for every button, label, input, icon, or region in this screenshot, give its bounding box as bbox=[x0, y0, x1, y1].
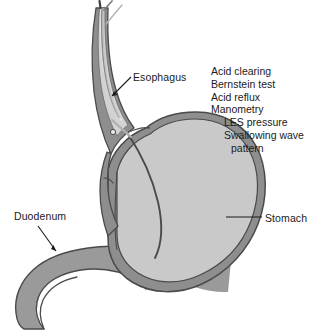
anatomy-illustration bbox=[0, 0, 316, 330]
test-list-item: Swallowing wave bbox=[211, 129, 304, 142]
test-list-item: Acid clearing bbox=[211, 65, 304, 78]
esophagus-label: Esophagus bbox=[133, 71, 186, 84]
test-list-item: LES pressure bbox=[211, 116, 304, 129]
duodenum-label: Duodenum bbox=[14, 210, 66, 223]
anatomy-figure: Esophagus Duodenum Stomach Acid clearing… bbox=[0, 0, 316, 330]
catheter-external-tube-1 bbox=[100, 1, 101, 8]
test-list-item: Manometry bbox=[211, 103, 304, 116]
test-list-item: Bernstein test bbox=[211, 78, 304, 91]
stomach-label: Stomach bbox=[265, 212, 307, 225]
esophageal-test-list: Acid clearingBernstein testAcid refluxMa… bbox=[211, 65, 304, 155]
catheter-sensor-bead bbox=[110, 129, 115, 134]
test-list-item: Acid reflux bbox=[211, 91, 304, 104]
test-list-item: pattern bbox=[211, 142, 304, 155]
